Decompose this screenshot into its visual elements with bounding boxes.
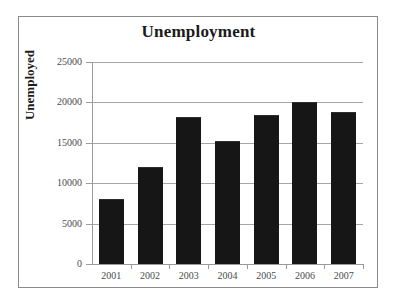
x-axis-tick	[363, 265, 364, 269]
y-axis-tick-label: 5000	[22, 218, 82, 229]
y-axis-tick	[86, 264, 92, 265]
y-axis-tick-label: 20000	[22, 96, 82, 107]
y-axis-tick-label: 25000	[22, 56, 82, 67]
bar-2006	[292, 102, 317, 264]
x-axis-tick-label-2002: 2002	[130, 270, 170, 281]
x-axis-tick-label-2005: 2005	[246, 270, 286, 281]
bar-2002	[138, 167, 163, 264]
y-axis-tick	[86, 102, 92, 103]
x-axis-tick	[169, 265, 170, 269]
y-axis-tick-labels: 0500010000150002000025000	[22, 0, 82, 306]
x-axis-tick	[131, 265, 132, 269]
x-axis-tick-label-2001: 2001	[91, 270, 131, 281]
x-axis-tick-label-2006: 2006	[285, 270, 325, 281]
y-axis-tick	[86, 62, 92, 63]
gridline	[92, 102, 363, 103]
x-axis-tick-label-2007: 2007	[324, 270, 364, 281]
y-axis-tick-label: 0	[22, 258, 82, 269]
y-axis-tick-label: 15000	[22, 137, 82, 148]
bar-2001	[99, 199, 124, 264]
bar-2005	[254, 115, 279, 264]
x-axis-tick	[286, 265, 287, 269]
bar-2007	[331, 112, 356, 264]
x-axis-tick	[208, 265, 209, 269]
plot-area	[92, 62, 363, 264]
bar-2003	[176, 117, 201, 264]
y-axis-tick	[86, 183, 92, 184]
x-axis-tick	[247, 265, 248, 269]
gridline	[92, 62, 363, 63]
y-axis-tick	[86, 143, 92, 144]
y-axis-tick-label: 10000	[22, 177, 82, 188]
y-axis-tick	[86, 224, 92, 225]
x-axis-tick-label-2003: 2003	[169, 270, 209, 281]
bar-2004	[215, 141, 240, 264]
x-axis-line	[92, 264, 364, 265]
x-axis-tick	[324, 265, 325, 269]
chart-figure: Unemployment Unemployed 0500010000150002…	[0, 0, 397, 306]
y-axis-line	[92, 62, 93, 265]
x-axis-tick-label-2004: 2004	[208, 270, 248, 281]
